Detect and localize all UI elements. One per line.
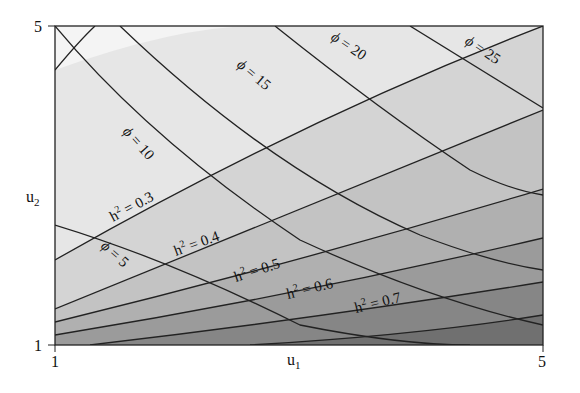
y-tick-label-max: 5 bbox=[34, 18, 42, 35]
x-axis-label: u1 bbox=[287, 351, 301, 371]
contour-chart: 5 1 1 5 u1 u2 ϕ = 10 ϕ = 15 ϕ = 20 ϕ = 2… bbox=[0, 0, 580, 393]
y-tick-label-min: 1 bbox=[34, 337, 42, 354]
plot-area bbox=[55, 26, 543, 345]
y-axis-label: u2 bbox=[26, 188, 40, 208]
x-tick-label-max: 5 bbox=[538, 353, 546, 370]
x-tick-label-min: 1 bbox=[51, 353, 59, 370]
